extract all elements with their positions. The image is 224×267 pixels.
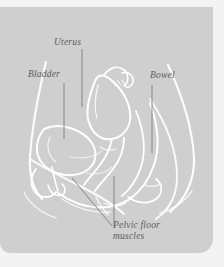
label-bladder: Bladder (28, 69, 60, 80)
illustration-panel: Uterus Bladder Bowel Pelvic floor muscle… (0, 7, 213, 253)
vaginal-canal-anterior (84, 139, 112, 185)
uterus-inner-line (95, 85, 98, 118)
anal-sphincter-line (144, 184, 160, 186)
anatomy-line-art (0, 7, 213, 253)
bowel-outline-inner (122, 111, 144, 196)
leader-pelvic-floor-a (72, 178, 112, 226)
fimbriae-hatch (112, 80, 125, 86)
cervix-line (100, 147, 116, 150)
label-pelvic-floor-muscles: Pelvic floor muscles (113, 220, 183, 242)
label-uterus: Uterus (54, 37, 81, 48)
leader-lines (64, 49, 152, 226)
buttock-crease (160, 191, 192, 213)
label-bowel: Bowel (150, 70, 175, 81)
label-pelvic-floor-line1: Pelvic floor (113, 220, 160, 230)
illustration-root: Uterus Bladder Bowel Pelvic floor muscle… (0, 0, 224, 267)
soft-tissue-line-a (70, 151, 102, 158)
body-outline-right (168, 65, 194, 212)
label-pelvic-floor-line2: muscles (113, 231, 144, 241)
bladder-outline (37, 126, 95, 175)
bladder-inner-line (48, 137, 56, 162)
urethra (52, 167, 58, 191)
